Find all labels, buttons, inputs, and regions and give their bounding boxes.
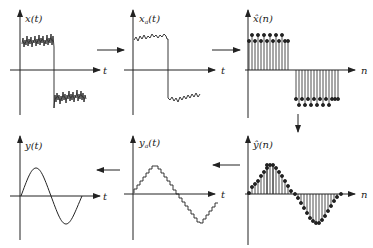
panel-yhat-n: ŷ(n) n xyxy=(245,136,367,245)
panel-label: y(t) xyxy=(24,140,43,151)
noisy-signal xyxy=(22,34,86,108)
panel-label: x(t) xyxy=(25,13,43,24)
axis-label: t xyxy=(103,191,108,202)
panel-xhat-n: x̂(n) n xyxy=(245,10,367,118)
panel-x-t: x(t) t xyxy=(10,10,108,115)
axis-label: t xyxy=(221,189,226,200)
axis-label: t xyxy=(103,65,108,76)
panel-y-t: y(t) t xyxy=(10,136,108,240)
panel-ya-t: ya(t) t xyxy=(124,136,226,240)
axis-label: n xyxy=(361,65,367,76)
filtered-signal xyxy=(134,34,200,102)
signal-processing-diagram: x(t) t xa(t) t x̂(n) n xyxy=(0,0,373,248)
panel-label: xa(t) xyxy=(139,13,160,25)
panel-label: ya(t) xyxy=(138,137,160,149)
axis-label: t xyxy=(221,65,226,76)
panel-xa-t: xa(t) t xyxy=(124,10,226,115)
panel-label: x̂(n) xyxy=(253,13,273,24)
panel-label: ŷ(n) xyxy=(252,139,273,150)
axis-label: n xyxy=(361,189,367,200)
